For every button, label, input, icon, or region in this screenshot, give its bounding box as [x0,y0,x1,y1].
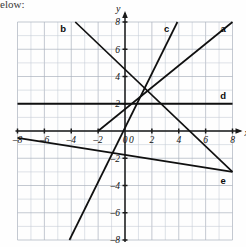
x-axis-arrowhead [236,128,243,134]
line-label-d: d [220,90,226,101]
graph-svg: xy –8–6–4–202468–8–6–4–224680 abcde [0,0,246,247]
figure-container: elow: xy –8–6–4–202468–8–6–4–224680 abcd… [0,0,246,247]
x-tick-label: –4 [66,135,77,145]
line-label-a: a [220,23,226,34]
y-tick-label: –8 [110,235,121,245]
y-tick-label: –2 [110,154,121,164]
y-tick-label: 4 [115,72,120,82]
y-tick-label: 2 [115,99,120,109]
y-tick-label: 6 [115,45,120,55]
y-axis-arrowhead [122,11,128,18]
coordinate-plane: xy –8–6–4–202468–8–6–4–224680 abcde [0,0,246,247]
x-tick-label: –8 [12,135,23,145]
y-tick-label: –4 [110,181,121,191]
x-tick-label: 0 [123,135,128,145]
x-tick-label: 6 [203,135,208,145]
x-axis-label: x [244,127,247,138]
plotted-line-b [75,22,232,172]
line-label-b: b [60,23,66,34]
origin-label: 0 [129,135,134,145]
y-tick-label: 8 [115,17,120,27]
line-label-e: e [220,175,225,186]
x-tick-label: 8 [230,135,235,145]
x-tick-label: –2 [92,135,103,145]
x-tick-label: 2 [150,135,155,145]
x-tick-label: –6 [39,135,50,145]
line-label-c: c [164,23,169,34]
y-tick-label: –6 [110,208,121,218]
y-axis-label: y [115,3,121,14]
x-tick-label: 4 [176,135,181,145]
